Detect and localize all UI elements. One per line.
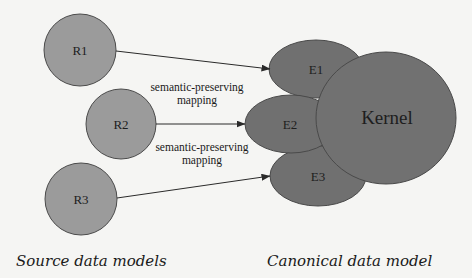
extension-e2-label: E2 (283, 117, 297, 132)
diagram-canvas: E1 E2 E3 Kernel R1 R2 R3 semantic-preser… (0, 0, 472, 278)
source-models-group: R1 R2 R3 (44, 14, 156, 235)
extension-e1-label: E1 (309, 62, 323, 77)
edge-label-1-line1: semantic-preserving (150, 81, 243, 94)
source-r2-label: R2 (113, 117, 128, 132)
source-data-models-caption: Source data models (16, 252, 167, 270)
kernel-label: Kernel (361, 107, 413, 128)
source-r1-label: R1 (72, 43, 87, 58)
diagram-svg: E1 E2 E3 Kernel R1 R2 R3 semantic-preser… (0, 0, 472, 278)
edge-label-2-line2: mapping (182, 154, 222, 167)
edge-label-2-line1: semantic-preserving (155, 141, 248, 154)
edge-r1-e1-arrow[interactable] (116, 51, 270, 69)
edge-r3-e3-arrow[interactable] (117, 176, 270, 198)
canonical-model-group: E1 E2 E3 Kernel (245, 40, 456, 206)
canonical-data-model-caption: Canonical data model (267, 252, 432, 270)
source-r3-label: R3 (73, 192, 88, 207)
edge-label-1-line2: mapping (177, 94, 217, 107)
extension-e3-label: E3 (311, 169, 325, 184)
